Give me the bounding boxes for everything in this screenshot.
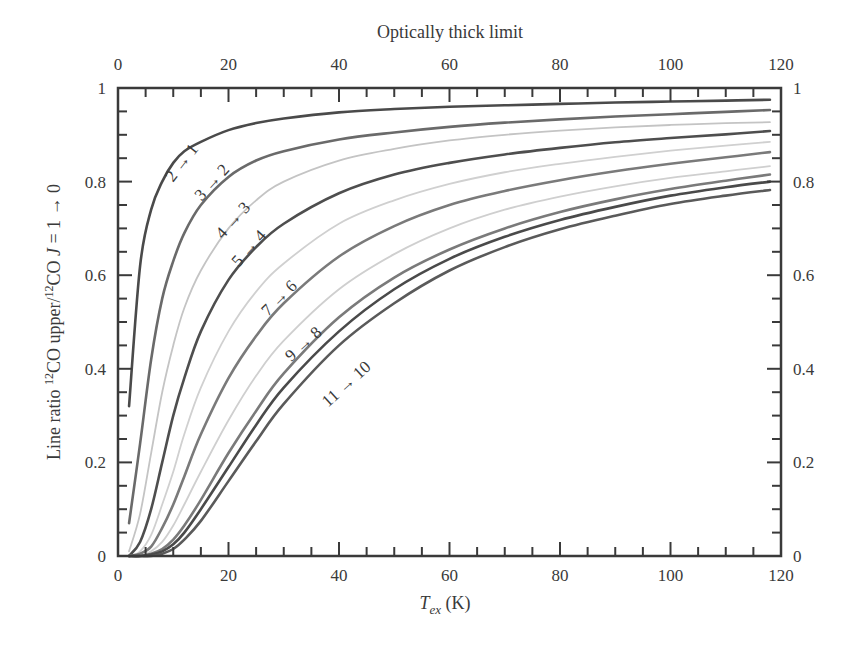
curve-11-10 <box>129 190 770 556</box>
curve-2-1 <box>129 100 770 407</box>
x-tick-label-bottom: 80 <box>552 566 569 585</box>
x-axis-title-sub: ex <box>429 602 441 617</box>
y-tick-label-right: 1 <box>793 79 802 98</box>
y-tick-label-left: 0.6 <box>85 266 106 285</box>
y-tick-label-left: 0 <box>98 547 107 566</box>
x-tick-label-top: 80 <box>552 55 569 74</box>
curve-label: 11 → 10 <box>318 357 374 411</box>
y-tick-label-right: 0.8 <box>793 173 814 192</box>
y-tick-label-left: 0.4 <box>85 360 107 379</box>
x-tick-label-top: 100 <box>658 55 684 74</box>
curve-label: 9 → 8 <box>281 323 325 366</box>
x-tick-label-bottom: 0 <box>114 566 123 585</box>
x-tick-label-bottom: 100 <box>658 566 684 585</box>
curve-labels: 2 → 13 → 24 → 35 → 47 → 69 → 811 → 10 <box>161 140 374 411</box>
x-tick-label-top: 120 <box>768 55 794 74</box>
x-tick-label-top: 20 <box>220 55 237 74</box>
y-tick-label-left: 1 <box>98 79 107 98</box>
x-tick-label-top: 0 <box>114 55 123 74</box>
y-tick-label-right: 0 <box>793 547 802 566</box>
y-axis-title: Line ratio 12CO upper/12CO J = 1 → 0 <box>42 184 64 460</box>
y-tick-label-left: 0.2 <box>85 453 106 472</box>
y-tick-label-right: 0.4 <box>793 360 815 379</box>
x-tick-label-top: 60 <box>441 55 458 74</box>
x-tick-label-bottom: 120 <box>768 566 794 585</box>
x-tick-label-bottom: 40 <box>331 566 348 585</box>
curve-label: 3 → 2 <box>191 160 234 204</box>
x-axis-title-unit: (K) <box>441 593 471 614</box>
curve-7-6 <box>129 152 770 556</box>
x-tick-label-top: 40 <box>331 55 348 74</box>
line-ratio-chart: 00202040406060808010010012012000.20.40.6… <box>0 0 855 650</box>
x-axis-title: Tex (K) <box>419 593 470 617</box>
y-tick-label-left: 0.8 <box>85 173 106 192</box>
curve-label: 2 → 1 <box>161 140 202 185</box>
top-axis-title: Optically thick limit <box>377 22 523 42</box>
y-tick-label-right: 0.2 <box>793 453 814 472</box>
x-tick-label-bottom: 20 <box>220 566 237 585</box>
y-tick-label-right: 0.6 <box>793 266 814 285</box>
x-tick-label-bottom: 60 <box>441 566 458 585</box>
